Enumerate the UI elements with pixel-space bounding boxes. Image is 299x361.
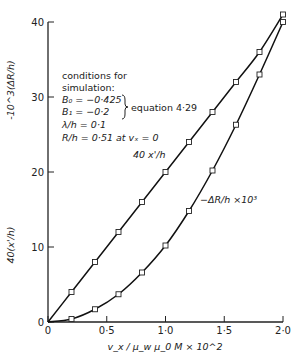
y-tick-label: 0 xyxy=(38,317,44,328)
y-tick-label: 20 xyxy=(31,167,44,178)
x-axis-label-text: v_x / μ_w μ_0 M × 10^2 xyxy=(108,341,223,352)
data-marker xyxy=(93,307,98,312)
equation-reference: equation 4·29 xyxy=(131,102,197,113)
data-marker xyxy=(116,230,121,235)
data-marker xyxy=(257,72,262,77)
data-marker xyxy=(187,140,192,145)
y-axis-label-outer-text: 40(x'/h) xyxy=(5,227,16,264)
data-marker xyxy=(140,200,145,205)
condition-lambda: λ/h = 0·1 xyxy=(61,119,106,130)
data-marker xyxy=(281,20,286,25)
series-label-1: 40 x'/h xyxy=(133,149,166,160)
x-tick-label: 0 xyxy=(45,325,51,336)
data-marker xyxy=(93,260,98,265)
data-marker xyxy=(163,243,168,248)
x-tick-label: 2·0 xyxy=(275,325,291,336)
conditions-title-1: conditions for xyxy=(62,70,127,81)
series-label-2: −ΔR/h ×10³ xyxy=(200,194,257,205)
chart: 00·51·01·52·0010203040v_x / μ_w μ_0 M × … xyxy=(0,0,299,361)
data-marker xyxy=(210,110,215,115)
x-tick-label: 1·0 xyxy=(158,325,174,336)
y-tick-label: 40 xyxy=(31,17,44,28)
data-marker xyxy=(234,122,239,127)
x-tick-label: 1·5 xyxy=(216,325,232,336)
condition-b1: B₁ = −0·2 xyxy=(62,106,109,117)
series-line-1 xyxy=(48,15,283,323)
condition-b0: B₀ = −0·425 xyxy=(62,94,121,105)
data-marker xyxy=(69,290,74,295)
y-tick-label: 30 xyxy=(31,92,44,103)
data-marker xyxy=(140,270,145,275)
data-marker xyxy=(234,80,239,85)
brace-icon xyxy=(122,95,128,119)
data-marker xyxy=(187,209,192,214)
x-tick-label: 0·5 xyxy=(99,325,115,336)
y-tick-label: 10 xyxy=(31,242,44,253)
data-marker xyxy=(69,317,74,322)
data-marker xyxy=(163,170,168,175)
data-marker xyxy=(210,168,215,173)
condition-r-h: R/h = 0·51 at vₓ = 0 xyxy=(62,132,158,143)
data-marker xyxy=(257,50,262,55)
data-marker xyxy=(281,12,286,17)
data-marker xyxy=(116,292,121,297)
y-axis-label-inner-text: -10^3(ΔR/h) xyxy=(5,60,16,119)
conditions-title-2: simulation: xyxy=(62,82,115,93)
